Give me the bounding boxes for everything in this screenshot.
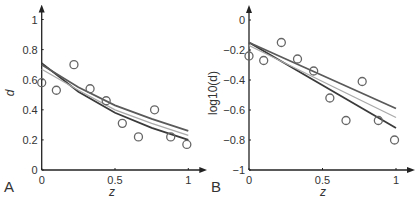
chart-panel-a: 00.20.40.60.8100.51 — [22, 9, 203, 187]
x-tick-label: 0 — [246, 174, 252, 186]
y-axis-label-a: d — [3, 89, 17, 96]
data-point — [294, 55, 302, 63]
y-tick-label: −0.6 — [223, 104, 245, 116]
y-tick-label: 0.4 — [22, 104, 37, 116]
y-tick-label: 0.2 — [22, 134, 37, 146]
chart-panel-b: −1−0.8−0.6−0.4−0.2000.51 — [223, 9, 411, 186]
figure: 00.20.40.60.8100.51 −1−0.8−0.6−0.4−0.200… — [0, 0, 417, 202]
x-tick-label: 0 — [39, 174, 45, 186]
y-axis-label-b: log10(d) — [206, 71, 220, 115]
data-point — [118, 119, 126, 127]
data-point — [70, 61, 78, 69]
x-axis-label-a: z — [108, 185, 115, 199]
y-tick-label: −0.4 — [223, 74, 245, 86]
fit-light-line — [249, 46, 396, 118]
y-tick-label: −0.8 — [223, 134, 245, 146]
x-tick-label: 1 — [393, 174, 399, 186]
y-tick-label: −1 — [232, 164, 245, 176]
data-point — [391, 136, 399, 144]
data-point — [342, 117, 350, 125]
panel-label-a: A — [4, 178, 14, 195]
data-point — [358, 78, 366, 86]
panel-label-b: B — [211, 178, 221, 195]
y-tick-label: −0.2 — [223, 44, 245, 56]
x-tick-label: 1 — [185, 174, 191, 186]
data-point — [326, 94, 334, 102]
y-tick-label: 1 — [32, 14, 38, 26]
fit-dark-line — [249, 43, 396, 129]
data-point — [151, 106, 159, 114]
data-point — [183, 140, 191, 148]
data-point — [277, 39, 285, 47]
fit-medium-line — [249, 43, 396, 109]
data-point — [134, 133, 142, 141]
y-tick-label: 0 — [239, 14, 245, 26]
y-tick-label: 0 — [32, 164, 38, 176]
data-point — [86, 85, 94, 93]
fit-medium-line — [42, 65, 189, 131]
data-point — [52, 86, 60, 94]
x-axis-label-b: z — [319, 185, 326, 199]
y-tick-label: 0.8 — [22, 44, 37, 56]
data-point — [260, 57, 268, 65]
y-tick-label: 0.6 — [22, 74, 37, 86]
